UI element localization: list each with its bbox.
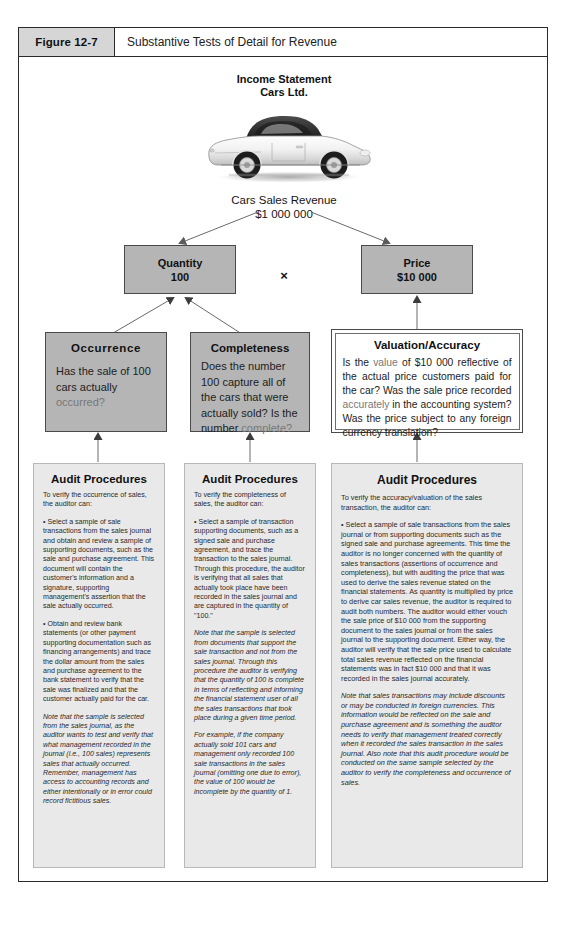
assertion-box-completeness: Completeness Does the number 100 capture… [190,332,310,432]
procedure-paragraph: • Select a sample of sale transactions f… [341,520,513,683]
procedure-note: For example, if the company actually sol… [194,731,306,797]
assertion-text: Has the sale of 100 cars actually [56,365,151,393]
price-label: Price [404,256,431,270]
procedure-paragraph: • Obtain and review bank statements (or … [43,620,155,705]
assertion-inner-border: Valuation/Accuracy Is the value of $10 0… [335,333,520,430]
assertion-body-valuation: Is the value of $10 000 reflective of th… [343,356,512,440]
figure-header: Figure 12-7 Substantive Tests of Detail … [18,27,548,57]
figure-root: Figure 12-7 Substantive Tests of Detail … [0,0,568,937]
figure-title-label: Substantive Tests of Detail for Revenue [127,35,337,49]
assertion-title-valuation: Valuation/Accuracy [343,339,512,351]
assertion-title-completeness: Completeness [201,342,299,354]
car-illustration [199,103,379,191]
assertion-highlight: complete? [241,422,292,434]
audit-procedures-box-occurrence: Audit Procedures To verify the occurrenc… [33,463,165,868]
assertion-highlight: accurately [343,399,390,410]
figure-number-label: Figure 12-7 [35,36,97,48]
procedure-paragraph: • Select a sample of sale transactions f… [43,518,155,612]
price-box: Price $10 000 [361,245,473,294]
assertion-body-occurrence: Has the sale of 100 cars actually occurr… [56,364,156,411]
assertion-title-occurrence: Occurrence [56,342,156,354]
procedure-paragraph: To verify the accuracy/valuation of the … [341,493,513,512]
revenue-label: Cars Sales Revenue [0,193,568,207]
income-statement-heading: Income Statement Cars Ltd. [0,73,568,99]
procedure-note: Note that the sample is selected from th… [43,713,155,807]
quantity-box: Quantity 100 [124,245,236,294]
procedure-paragraph: To verify the completeness of sales, the… [194,491,306,510]
audit-procedures-title: Audit Procedures [43,473,155,485]
assertion-highlight: occurred? [56,396,105,408]
figure-number-cell: Figure 12-7 [19,28,115,56]
multiplication-operator: × [274,268,294,283]
audit-procedures-box-completeness: Audit Procedures To verify the completen… [184,463,316,868]
assertion-text: Is the [343,357,374,368]
audit-procedures-title: Audit Procedures [341,473,513,487]
quantity-label: Quantity [158,256,203,270]
income-statement-line1: Income Statement [0,73,568,86]
procedure-note: Note that the sample is selected from do… [194,629,306,723]
audit-procedures-title: Audit Procedures [194,473,306,485]
procedure-paragraph: To verify the occurrence of sales, the a… [43,491,155,510]
procedure-paragraph: • Select a sample of transaction support… [194,518,306,621]
price-value: $10 000 [397,270,437,284]
assertion-body-completeness: Does the number 100 capture all of the c… [201,359,299,437]
revenue-label-group: Cars Sales Revenue $1 000 000 [0,193,568,221]
procedure-note: Note that sales transactions may include… [341,691,513,787]
assertion-box-valuation-accuracy: Valuation/Accuracy Is the value of $10 0… [331,329,523,433]
income-statement-line2: Cars Ltd. [0,86,568,99]
quantity-value: 100 [171,270,189,284]
audit-procedures-box-valuation: Audit Procedures To verify the accuracy/… [331,463,523,868]
figure-title-cell: Substantive Tests of Detail for Revenue [115,28,547,56]
assertion-box-occurrence: Occurrence Has the sale of 100 cars actu… [45,332,167,432]
assertion-highlight: value [373,357,398,368]
revenue-amount: $1 000 000 [0,207,568,221]
